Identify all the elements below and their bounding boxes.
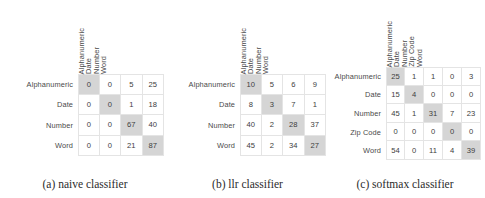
matrix-cell: 0 xyxy=(78,74,100,95)
matrix-cell: 7 xyxy=(443,104,462,123)
row-label-word: Word xyxy=(176,136,240,157)
matrix-cell: 54 xyxy=(386,141,405,160)
matrix-cell: 0 xyxy=(78,95,100,116)
column-header-row: Alphanumeric Date Number Zip Code Word xyxy=(329,0,423,67)
matrix-cell: 1 xyxy=(305,95,327,116)
column-header-row: Alphanumeric Date Number Word xyxy=(176,6,270,74)
matrix-cell: 40 xyxy=(143,115,165,136)
matrix-cell: 0 xyxy=(462,123,481,142)
matrix-cell: 0 xyxy=(443,86,462,105)
matrix-cell: 39 xyxy=(462,141,481,160)
matrix-cell: 27 xyxy=(305,136,327,157)
matrix-cell: 0 xyxy=(386,123,405,142)
panel-softmax-classifier: Alphanumeric Date Number Zip Code Word A… xyxy=(325,0,485,198)
column-header-word: Word xyxy=(100,6,107,74)
matrix-cell: 6 xyxy=(283,74,305,95)
matrix-cell: 0 xyxy=(405,123,424,142)
matrix-cell: 0 xyxy=(443,67,462,86)
matrix-cell: 0 xyxy=(405,141,424,160)
row-label-word: Word xyxy=(8,136,78,157)
matrix-cell: 4 xyxy=(443,141,462,160)
matrix-cell: 5 xyxy=(262,74,284,95)
row-label-date: Date xyxy=(8,95,78,116)
matrix-cell: 1 xyxy=(405,67,424,86)
matrix-cell: 25 xyxy=(386,67,405,86)
matrix-cell: 0 xyxy=(100,115,122,136)
matrix-cell: 0 xyxy=(78,115,100,136)
row-label-date: Date xyxy=(329,86,386,105)
column-header-label: Word xyxy=(262,54,269,74)
matrix-cell: 87 xyxy=(143,136,165,157)
matrix-cell: 0 xyxy=(100,95,122,116)
matrix-cell: 8 xyxy=(240,95,262,116)
matrix-cell: 3 xyxy=(462,67,481,86)
matrix-cell: 1 xyxy=(121,95,143,116)
matrix-cell: 37 xyxy=(305,115,327,136)
matrix-cell: 9 xyxy=(305,74,327,95)
matrix-cell: 15 xyxy=(386,86,405,105)
matrix-cell: 0 xyxy=(424,123,443,142)
matrix-cell: 28 xyxy=(283,115,305,136)
table-row: Date 8 3 7 1 xyxy=(176,95,326,116)
matrix-cell: 34 xyxy=(283,136,305,157)
confusion-matrix-softmax: Alphanumeric Date Number Zip Code Word A… xyxy=(329,0,481,160)
table-row: Date 0 0 1 18 xyxy=(8,95,164,116)
confusion-matrix-naive: Alphanumeric Date Number Word Alphanumer… xyxy=(8,6,164,156)
panel-naive-classifier: Alphanumeric Date Number Word Alphanumer… xyxy=(0,0,170,198)
row-label-word: Word xyxy=(329,141,386,160)
table-row: Date 15 4 0 0 0 xyxy=(329,86,481,105)
column-header-word: Word xyxy=(262,6,269,74)
confusion-matrix-llr: Alphanumeric Date Number Word Alphanumer… xyxy=(176,6,326,156)
column-header-label: Word xyxy=(416,47,423,67)
matrix-cell: 7 xyxy=(283,95,305,116)
matrix-cell: 67 xyxy=(121,115,143,136)
row-label-number: Number xyxy=(176,115,240,136)
matrix-cell: 5 xyxy=(121,74,143,95)
matrix-cell: 31 xyxy=(424,104,443,123)
matrix-cell: 11 xyxy=(424,141,443,160)
row-label-alphanumeric: Alphanumeric xyxy=(176,74,240,95)
matrix-cell: 10 xyxy=(240,74,262,95)
matrix-cell: 0 xyxy=(78,136,100,157)
column-header-label: Word xyxy=(100,54,107,74)
table-row: Number 0 0 67 40 xyxy=(8,115,164,136)
matrix-cell: 0 xyxy=(100,136,122,157)
table-row: Word 45 2 34 27 xyxy=(176,136,326,157)
panel-caption-llr: (b) llr classifier xyxy=(170,178,325,190)
confusion-matrix-figure: Alphanumeric Date Number Word Alphanumer… xyxy=(0,0,485,198)
matrix-cell: 23 xyxy=(462,104,481,123)
matrix-cell: 4 xyxy=(405,86,424,105)
column-header-row: Alphanumeric Date Number Word xyxy=(8,6,108,74)
table-row: Alphanumeric 10 5 6 9 xyxy=(176,74,326,95)
matrix-cell: 21 xyxy=(121,136,143,157)
matrix-cell: 18 xyxy=(143,95,165,116)
matrix-cell: 0 xyxy=(100,74,122,95)
matrix-cell: 40 xyxy=(240,115,262,136)
matrix-cell: 25 xyxy=(143,74,165,95)
row-label-number: Number xyxy=(8,115,78,136)
panel-caption-naive: (a) naive classifier xyxy=(0,178,170,190)
matrix-cell: 45 xyxy=(240,136,262,157)
matrix-cell: 1 xyxy=(424,67,443,86)
panel-llr-classifier: Alphanumeric Date Number Word Alphanumer… xyxy=(170,0,325,198)
row-label-date: Date xyxy=(176,95,240,116)
row-label-alphanumeric: Alphanumeric xyxy=(329,67,386,86)
matrix-cell: 0 xyxy=(424,86,443,105)
table-row: Word 0 0 21 87 xyxy=(8,136,164,157)
matrix-cell: 1 xyxy=(405,104,424,123)
table-row: Alphanumeric 0 0 5 25 xyxy=(8,74,164,95)
table-row: Number 40 2 28 37 xyxy=(176,115,326,136)
table-row: Alphanumeric 25 1 1 0 3 xyxy=(329,67,481,86)
table-row: Zip Code 0 0 0 0 0 xyxy=(329,123,481,142)
matrix-cell: 3 xyxy=(262,95,284,116)
matrix-cell: 2 xyxy=(262,115,284,136)
column-header-word: Word xyxy=(416,0,423,67)
table-row: Word 54 0 11 4 39 xyxy=(329,141,481,160)
matrix-cell: 2 xyxy=(262,136,284,157)
row-label-number: Number xyxy=(329,104,386,123)
matrix-cell: 45 xyxy=(386,104,405,123)
matrix-cell: 0 xyxy=(462,86,481,105)
panel-caption-softmax: (c) softmax classifier xyxy=(325,178,485,190)
matrix-cell: 0 xyxy=(443,123,462,142)
table-row: Number 45 1 31 7 23 xyxy=(329,104,481,123)
